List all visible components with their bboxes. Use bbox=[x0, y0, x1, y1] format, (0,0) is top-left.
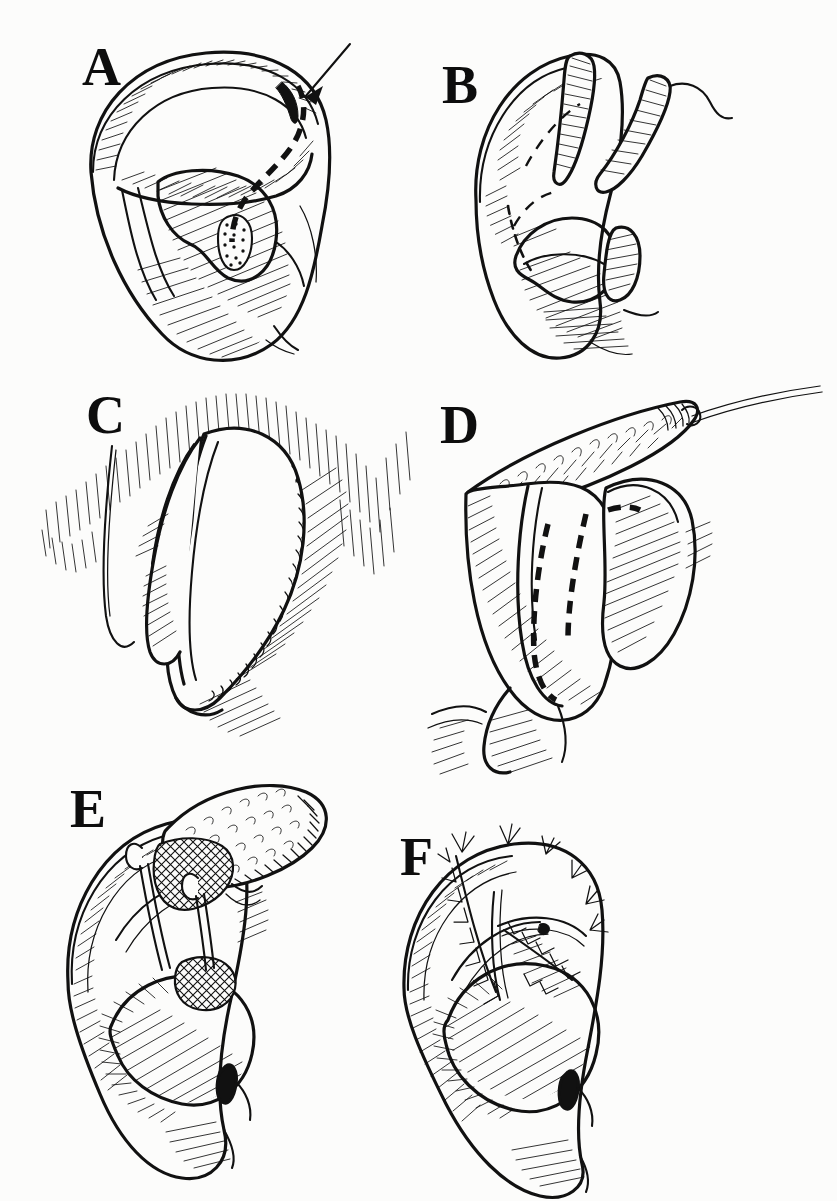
panel-e: E bbox=[40, 770, 440, 1190]
panel-e-drawing bbox=[40, 770, 440, 1190]
panel-c-drawing bbox=[40, 380, 420, 760]
panel-d: D bbox=[410, 380, 830, 780]
panel-d-traction-suture bbox=[682, 386, 822, 425]
panel-b-drawing bbox=[420, 20, 790, 370]
panel-f-drawing bbox=[390, 820, 790, 1200]
panel-a: A bbox=[60, 20, 400, 370]
panel-a-arrow bbox=[305, 44, 350, 105]
figure-plate: A bbox=[0, 0, 837, 1201]
panel-f: F bbox=[390, 820, 790, 1200]
panel-c: C bbox=[40, 380, 420, 760]
panel-d-drawing bbox=[410, 380, 830, 780]
panel-b: B bbox=[420, 20, 790, 370]
panel-a-drawing bbox=[60, 20, 400, 370]
